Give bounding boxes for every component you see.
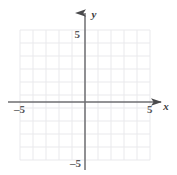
x-axis-label: x: [162, 100, 169, 112]
y-axis-label: y: [90, 8, 97, 20]
coordinate-grid-figure: 5 –5 –5 5 x y: [0, 0, 177, 175]
y-axis-tick-label-positive: 5: [75, 28, 81, 40]
y-axis-tick-label-negative: –5: [69, 157, 82, 169]
x-axis-tick-label-positive: 5: [147, 103, 153, 115]
x-axis-tick-label-negative: –5: [13, 103, 26, 115]
coordinate-plane-svg: 5 –5 –5 5 x y: [0, 0, 177, 175]
